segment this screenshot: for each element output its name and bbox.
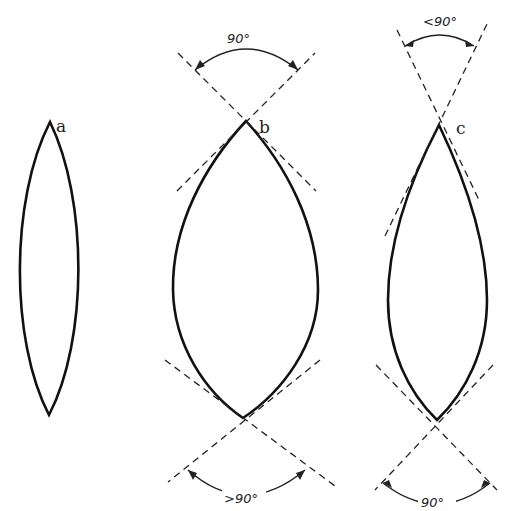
c-top-tangent-left [397,30,480,202]
c-bottom-tangent-right [375,365,493,490]
lens-shapes-diagram: a b 90° >90° c <90° [0,0,509,511]
shape-a: a [20,116,79,415]
shape-c-outline [388,125,487,420]
shape-c: c <90° 90° [375,13,497,510]
b-bottom-arrow-right-icon [296,470,305,480]
b-bottom-angle-label: >90° [224,491,258,506]
c-top-arrow-right-icon [465,40,474,47]
b-top-arrow-left-icon [195,60,205,70]
label-c: c [456,118,466,138]
b-top-arrow-right-icon [288,60,298,70]
c-top-angle-label: <90° [423,14,457,29]
shape-a-outline [20,122,79,415]
b-top-angle-arc [195,49,298,70]
b-top-angle-label: 90° [227,31,250,46]
c-top-arrow-left-icon [405,40,414,47]
shape-b: b 90° >90° [165,30,335,506]
shape-b-outline [173,121,318,418]
b-bottom-arrow-left-icon [188,470,197,480]
label-a: a [56,116,66,136]
b-top-tangent-right [177,53,315,191]
c-top-angle-arc [405,35,474,46]
c-bottom-tangent-left [376,365,497,490]
b-bottom-tangent-right [168,360,320,482]
c-bottom-angle-label: 90° [421,495,444,510]
b-top-tangent-left [178,53,316,191]
label-b: b [259,117,270,137]
b-bottom-tangent-left [165,360,335,486]
